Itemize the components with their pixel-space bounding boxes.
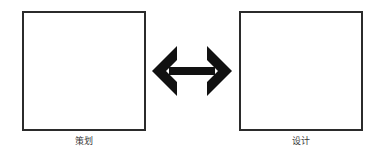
node-design-label: 设计 bbox=[239, 135, 363, 147]
node-plan-box[interactable] bbox=[22, 11, 146, 131]
double-headed-arrow-glyph bbox=[149, 43, 235, 99]
node-design-box[interactable] bbox=[239, 11, 363, 131]
diagram-canvas: 策划 设计 bbox=[0, 0, 383, 158]
node-plan-label: 策划 bbox=[22, 135, 146, 147]
bidirectional-arrow-icon bbox=[149, 43, 235, 99]
